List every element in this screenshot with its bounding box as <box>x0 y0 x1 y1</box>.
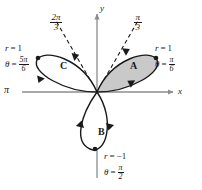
annotation-bottom-r: r = −1 <box>104 152 126 161</box>
annotation-bottom: r = −1 θ = π 2 <box>104 152 126 182</box>
annotation-bottom-theta: θ = π 2 <box>104 164 126 182</box>
polar-plot-canvas <box>0 0 202 190</box>
tip-marker-b <box>93 147 98 152</box>
right-theta-denominator: 6 <box>169 65 175 73</box>
arrowhead-petal-c-outbound <box>72 51 81 61</box>
left-theta-equals: = <box>11 60 16 69</box>
bottom-theta-denominator: 2 <box>118 173 124 181</box>
annotation-left-theta: θ = 5π 6 <box>5 56 29 74</box>
x-axis-label: x <box>178 87 182 96</box>
ray-pi-3-denominator: 3 <box>134 23 142 32</box>
ray-2pi-3-denominator: 3 <box>52 23 60 32</box>
dashed-ray-2pi-3-label: 2π 3 <box>50 13 62 33</box>
y-axis-label: y <box>100 4 104 13</box>
left-theta-denominator: 6 <box>21 65 27 73</box>
annotation-right-theta: θ = π 6 <box>155 56 175 74</box>
region-label-c: C <box>60 61 67 71</box>
bottom-r-var: r <box>104 152 108 161</box>
left-r-var: r <box>5 44 9 53</box>
region-label-b: B <box>98 127 105 137</box>
right-theta-var: θ <box>155 60 159 69</box>
left-r-equals: = <box>11 44 16 53</box>
bottom-r-equals: = <box>110 152 115 161</box>
arrowhead-petal-c-inbound <box>35 75 45 84</box>
right-r-var: r <box>155 44 159 53</box>
right-r-equals: = <box>161 44 166 53</box>
polar-rose-figure: x y π 2π 3 π 3 A B C r = 1 θ = 5π 6 <box>0 0 202 190</box>
region-label-a: A <box>130 61 137 71</box>
left-theta-var: θ <box>5 60 9 69</box>
pi-axis-label: π <box>4 85 9 95</box>
petal-b-unshaded <box>81 92 108 150</box>
right-theta-equals: = <box>161 60 166 69</box>
dashed-ray-pi-3-label: π 3 <box>134 13 142 33</box>
bottom-theta-equals: = <box>110 168 115 177</box>
bottom-theta-var: θ <box>104 168 108 177</box>
petal-a-shaded <box>97 55 158 92</box>
bottom-r-value: −1 <box>117 152 127 161</box>
annotation-right: r = 1 θ = π 6 <box>155 44 175 74</box>
tip-marker-c <box>36 56 41 61</box>
annotation-left-r: r = 1 <box>5 44 29 53</box>
annotation-left: r = 1 θ = 5π 6 <box>5 44 29 74</box>
right-r-value: 1 <box>168 44 173 53</box>
left-r-value: 1 <box>18 44 23 53</box>
annotation-right-r: r = 1 <box>155 44 175 53</box>
